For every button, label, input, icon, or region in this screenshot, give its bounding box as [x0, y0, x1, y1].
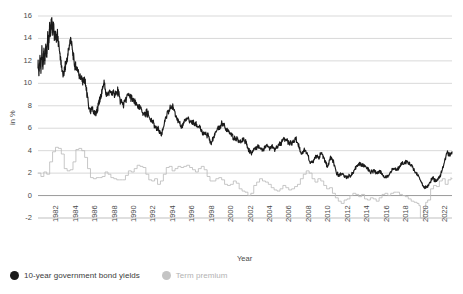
x-tick-label: 1992: [148, 205, 157, 222]
y-tick-label: 12: [8, 56, 32, 65]
y-tick-label: 6: [8, 123, 32, 132]
x-tick-label: 2008: [304, 205, 313, 222]
x-tick-label: 2016: [382, 205, 391, 222]
x-tick-label: 1996: [187, 205, 196, 222]
x-tick-label: 1982: [51, 205, 60, 222]
x-tick-label: 1998: [207, 205, 216, 222]
x-tick-label: 1984: [71, 205, 80, 222]
y-tick-label: 8: [8, 101, 32, 110]
x-tick-label: 2000: [226, 205, 235, 222]
x-tick-label: 2010: [323, 205, 332, 222]
legend-item[interactable]: Term premium: [162, 271, 228, 280]
legend-marker-dot-icon: [10, 271, 19, 280]
x-tick-label: 2006: [284, 205, 293, 222]
y-tick-label: 16: [8, 11, 32, 20]
y-tick-label: 4: [8, 146, 32, 155]
y-tick-label: 0: [8, 191, 32, 200]
legend-item[interactable]: 10-year government bond yields: [10, 271, 140, 280]
legend-label: Term premium: [176, 271, 228, 280]
x-tick-label: 1994: [168, 205, 177, 222]
x-tick-label: 1990: [129, 205, 138, 222]
x-tick-label: 1986: [90, 205, 99, 222]
y-tick-label: 14: [8, 33, 32, 42]
x-tick-label: 2022: [440, 205, 449, 222]
y-tick-label: 2: [8, 168, 32, 177]
series-line: [38, 18, 452, 189]
x-tick-label: 2002: [246, 205, 255, 222]
chart-plot-area: [0, 0, 463, 294]
y-tick-label: 10: [8, 78, 32, 87]
x-tick-label: 1988: [110, 205, 119, 222]
x-tick-label: 2012: [343, 205, 352, 222]
x-tick-label: 2004: [265, 205, 274, 222]
legend-marker-dot-icon: [162, 271, 171, 280]
chart-legend: 10-year government bond yieldsTerm premi…: [10, 271, 250, 280]
x-tick-label: 2014: [362, 205, 371, 222]
x-axis-title: Year: [237, 254, 252, 263]
x-tick-label: 2020: [421, 205, 430, 222]
x-tick-label: 2018: [401, 205, 410, 222]
chart-container: in % Year 1614121086420-2 19821984198619…: [0, 0, 463, 294]
legend-label: 10-year government bond yields: [24, 271, 140, 280]
y-tick-label: -2: [8, 213, 32, 222]
